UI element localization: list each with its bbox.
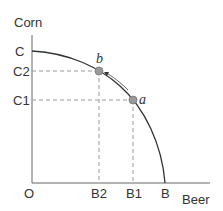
tick-c2: C2	[13, 64, 30, 79]
point-b-label: b	[96, 51, 103, 66]
tick-c: C	[15, 44, 24, 59]
tick-c1: C1	[13, 93, 30, 108]
movement-arrow	[106, 73, 128, 90]
y-axis-label: Corn	[14, 15, 42, 30]
point-a	[129, 96, 137, 104]
origin-label: O	[24, 186, 34, 201]
point-b	[95, 67, 103, 75]
x-axis-label: Beer	[182, 192, 210, 207]
tick-b: B	[161, 186, 170, 201]
point-a-label: a	[139, 92, 146, 107]
tick-b2: B2	[91, 186, 107, 201]
ppf-diagram: Corn Beer O C C2 C1 B2 B1 B b a	[0, 0, 223, 211]
tick-b1: B1	[126, 186, 142, 201]
